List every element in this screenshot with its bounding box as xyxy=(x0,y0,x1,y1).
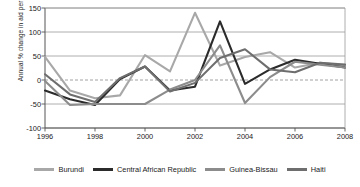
x-tick-label: 2002 xyxy=(187,133,203,140)
legend-item-guinea-bissau[interactable]: Guinea-Bissau xyxy=(205,166,277,173)
x-tick-label: 1998 xyxy=(87,133,103,140)
legend-swatch xyxy=(34,168,54,171)
x-tick-label: 1996 xyxy=(37,133,53,140)
legend-label: Central African Republic xyxy=(117,166,196,173)
legend-item-burundi[interactable]: Burundi xyxy=(34,166,83,173)
legend-swatch xyxy=(287,168,307,171)
legend-swatch xyxy=(93,168,113,171)
legend-label: Guinea-Bissau xyxy=(229,166,277,173)
legend-swatch xyxy=(205,168,225,171)
x-tick-label: 2006 xyxy=(287,133,303,140)
x-tick-label: 2008 xyxy=(337,133,353,140)
chart-legend: BurundiCentral African RepublicGuinea-Bi… xyxy=(0,166,360,173)
legend-item-haiti[interactable]: Haiti xyxy=(287,166,326,173)
x-axis-tick-labels: 1996 1998 2000 2002 2004 2006 2008 xyxy=(0,0,360,187)
x-tick-label: 2004 xyxy=(237,133,253,140)
legend-label: Haiti xyxy=(311,166,326,173)
legend-item-central-african-republic[interactable]: Central African Republic xyxy=(93,166,196,173)
x-tick-label: 2000 xyxy=(137,133,153,140)
chart-figure: Annual % change in aid per capita 150 10… xyxy=(0,0,360,187)
legend-label: Burundi xyxy=(58,166,83,173)
